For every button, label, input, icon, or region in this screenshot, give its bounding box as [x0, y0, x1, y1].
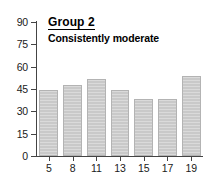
x-tick-label: 11 — [84, 163, 108, 174]
x-tick-label: 15 — [132, 163, 156, 174]
x-tick-mark — [167, 157, 168, 161]
chart-subtitle: Consistently moderate — [48, 32, 198, 44]
x-tick-label: 5 — [37, 163, 61, 174]
x-tick-mark — [49, 157, 50, 161]
bar — [63, 85, 82, 156]
bar — [87, 79, 106, 156]
bar — [111, 90, 130, 156]
x-tick-mark — [73, 157, 74, 161]
x-tick-mark — [144, 157, 145, 161]
chart-title-block: Group 2 Consistently moderate — [48, 12, 198, 44]
bar — [39, 90, 58, 156]
x-tick-mark — [191, 157, 192, 161]
x-tick-mark — [120, 157, 121, 161]
x-tick-mark — [96, 157, 97, 161]
page-title: Group 2 — [48, 16, 95, 30]
bar — [182, 76, 201, 156]
x-tick-label: 13 — [108, 163, 132, 174]
bar — [134, 99, 153, 156]
x-tick-label: 19 — [179, 163, 203, 174]
bar — [158, 99, 177, 156]
x-tick-label: 17 — [155, 163, 179, 174]
x-tick-label: 8 — [61, 163, 85, 174]
bar-chart: 0153045607590 581113151719 Group 2 Consi… — [0, 0, 206, 183]
